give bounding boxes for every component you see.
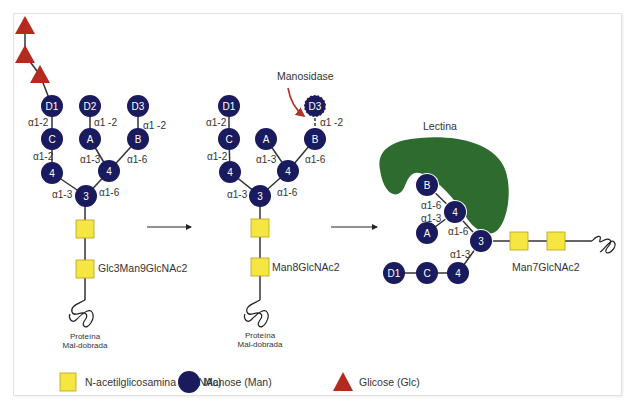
mannose-node-3: 3 [469, 229, 493, 253]
structure-label: Man7GlcNAc2 [512, 261, 580, 273]
linkage-label: α1-3 [256, 154, 277, 165]
glcnac-square [547, 232, 565, 250]
mannose-node-4-right: 4 [277, 160, 299, 182]
svg-text:4: 4 [49, 168, 55, 179]
legend-label: N-acetilglicosamina (GlcNAc) [85, 376, 222, 388]
mannose-node-4-right: 4 [98, 160, 120, 182]
linkage-label: α1-6 [127, 154, 148, 165]
glcnac-square [251, 258, 269, 276]
glucose-icon [30, 65, 50, 83]
svg-text:D1: D1 [46, 101, 59, 112]
svg-text:4: 4 [455, 268, 461, 279]
glcnac-legend-icon [60, 373, 76, 391]
legend-label: Glicose (Glc) [359, 376, 420, 388]
mannose-node-b: B [304, 128, 326, 150]
mannose-node-d1: D1 [218, 95, 240, 117]
mannose-node-b: B [127, 128, 149, 150]
linkage-label: α1-3 [80, 154, 101, 165]
protein-coil-icon [592, 236, 615, 253]
mannose-legend-icon [178, 371, 200, 393]
structure-man8glcnac2: D1 D3 C A B 4 4 3 α1-2 α1 -2 α1-2 α1-3 α… [206, 70, 343, 349]
svg-text:C: C [423, 268, 430, 279]
linkage-label: α1-6 [448, 226, 469, 237]
mannose-node-4-upper: 4 [443, 200, 467, 224]
legend: N-acetilglicosamina (GlcNAc) Manose (Man… [60, 371, 420, 393]
svg-text:D3: D3 [309, 101, 322, 112]
structure-glc3man9glcnac2: D1 D2 D3 C A B 4 4 3 α1-2 α1 -2 α1 -2 α1… [15, 16, 187, 350]
mannose-node-d3-removed: D3 [304, 95, 326, 117]
linkage-label: α1-6 [99, 187, 120, 198]
glucose-icon [15, 45, 35, 63]
glycan-diagram: D1 D2 D3 C A B 4 4 3 α1-2 α1 -2 α1 -2 α1… [0, 0, 633, 410]
linkage-label: α1-6 [277, 187, 298, 198]
mannose-node-d1: D1 [383, 262, 405, 284]
svg-text:A: A [87, 134, 94, 145]
mannose-node-c: C [41, 128, 63, 150]
glcnac-square [510, 232, 528, 250]
linkage-label: α1 -2 [143, 120, 166, 131]
glucose-icon [15, 16, 35, 34]
svg-text:3: 3 [257, 191, 263, 202]
svg-text:4: 4 [106, 166, 112, 177]
linkage-label: α1-6 [305, 154, 326, 165]
linkage-label: α1-3 [421, 213, 442, 224]
misfolded-protein-icon [244, 300, 268, 327]
svg-text:B: B [135, 134, 142, 145]
linkage-label: α1-2 [207, 151, 228, 162]
svg-text:C: C [48, 134, 55, 145]
mannose-node-4-left: 4 [41, 162, 63, 184]
linkage-label: α1-2 [33, 151, 54, 162]
svg-text:4: 4 [227, 167, 233, 178]
svg-text:4: 4 [452, 207, 458, 218]
lectin-label: Lectina [423, 120, 457, 132]
svg-text:D2: D2 [84, 101, 97, 112]
mannose-node-c: C [218, 128, 240, 150]
glucose-legend-icon [333, 372, 353, 391]
mannose-node-c: C [416, 262, 438, 284]
glcnac-square [251, 219, 269, 237]
mannose-node-4-left: 4 [219, 161, 241, 183]
svg-text:4: 4 [285, 166, 291, 177]
structure-man7glcnac2: Lectina B 4 A 3 4 C D1 α1-6 α1-3 α1-6 α1… [379, 120, 615, 284]
protein-label: Mal-dobrada [63, 341, 108, 350]
svg-text:D3: D3 [132, 101, 145, 112]
protein-label: Proteína [245, 331, 276, 340]
linkage-label: α1-3 [450, 249, 471, 260]
mannose-node-b: B [415, 173, 439, 197]
protein-label: Proteína [70, 332, 101, 341]
linkage-label: α1-2 [206, 117, 227, 128]
glcnac-square [76, 220, 94, 238]
svg-text:A: A [424, 228, 431, 239]
mannose-node-d2: D2 [79, 95, 101, 117]
svg-text:3: 3 [83, 191, 89, 202]
lectin-shape [379, 137, 508, 233]
linkage-label: α1-6 [421, 200, 442, 211]
svg-text:C: C [225, 134, 232, 145]
linkage-label: α1-3 [227, 189, 248, 200]
mannose-node-a: A [79, 128, 101, 150]
svg-text:B: B [312, 134, 319, 145]
mannose-node-4-lower: 4 [447, 262, 469, 284]
mannose-node-a: A [416, 222, 438, 244]
glcnac-square [76, 260, 94, 278]
mannose-node-3: 3 [75, 185, 97, 207]
mannose-node-a: A [255, 128, 277, 150]
linkage-label: α1 -2 [94, 117, 117, 128]
svg-text:A: A [263, 134, 270, 145]
linkage-label: α1-2 [28, 117, 49, 128]
svg-text:D1: D1 [388, 268, 401, 279]
manosidase-arrow-icon [288, 88, 304, 116]
svg-text:D1: D1 [223, 101, 236, 112]
structure-label: Glc3Man9GlcNAc2 [98, 262, 187, 274]
misfolded-protein-icon [69, 300, 93, 327]
linkage-label: α1 -2 [320, 117, 343, 128]
svg-text:3: 3 [478, 236, 484, 247]
protein-label: Mal-dobrada [238, 340, 283, 349]
legend-label: Manose (Man) [204, 376, 272, 388]
mannose-node-d1: D1 [41, 95, 63, 117]
mannose-node-3: 3 [249, 185, 271, 207]
enzyme-label: Manosidase [277, 70, 334, 82]
structure-label: Man8GlcNAc2 [272, 261, 340, 273]
linkage-label: α1-3 [52, 189, 73, 200]
svg-text:B: B [424, 180, 431, 191]
